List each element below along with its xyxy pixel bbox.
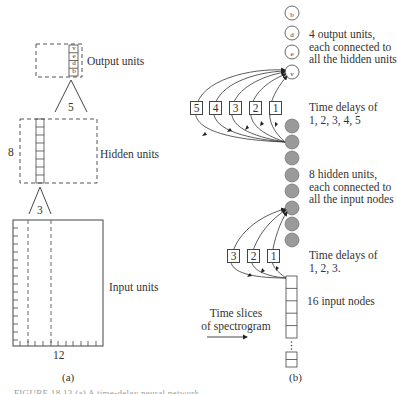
caption-a: (a) xyxy=(62,371,74,383)
output-node-e: e xyxy=(288,48,296,61)
figure-caption: FIGURE 18.13 (a) A time-delay neural net… xyxy=(14,388,199,394)
hidden-description: 8 hidden units, each connected to all th… xyxy=(309,168,394,206)
time-slices-line: of spectrogram xyxy=(195,320,277,333)
output-cell-labels: v e d b xyxy=(70,45,78,76)
input-column-ticks xyxy=(20,341,96,346)
hidden-units-label: Hidden units xyxy=(100,148,159,161)
input-delay-box-2: 2 xyxy=(247,249,260,263)
output-cell-b: b xyxy=(70,68,78,76)
input-delay-box-3: 3 xyxy=(227,249,240,263)
input-units-label: Input units xyxy=(109,281,159,294)
input-row-ticks xyxy=(13,228,18,340)
delay-box-3: 3 xyxy=(229,101,242,115)
input-width-label: 12 xyxy=(53,349,65,362)
time-slices-line: Time slices xyxy=(195,307,277,320)
delay-box-2: 2 xyxy=(249,101,262,115)
output-desc-line: all the hidden units xyxy=(309,53,397,66)
output-node-b: b xyxy=(288,9,296,22)
hidden-window-box xyxy=(20,119,97,183)
output-node-d: d xyxy=(288,29,296,42)
input-node-column xyxy=(286,276,297,367)
input-window-size: 3 xyxy=(37,204,43,217)
input-units-box xyxy=(13,220,103,346)
output-description: 4 output units, each connected to all th… xyxy=(309,28,397,66)
output-desc-line: each connected to xyxy=(309,41,397,54)
hidden-count-label: 8 xyxy=(8,146,14,159)
input-delay-desc-line: Time delays of xyxy=(309,249,378,262)
hidden-desc-line: each connected to xyxy=(309,181,394,194)
input-delay-arcs xyxy=(231,209,287,278)
caption-b: (b) xyxy=(289,371,302,383)
hidden-unit-column xyxy=(36,119,44,183)
output-desc-line: 4 output units, xyxy=(309,28,397,41)
ellipsis-dots xyxy=(291,341,293,350)
input-nodes-label: 16 input nodes xyxy=(307,295,375,308)
delay-box-4: 4 xyxy=(209,101,222,115)
input-delay-desc-line: 1, 2, 3. xyxy=(309,262,378,275)
delay-box-5: 5 xyxy=(190,101,203,115)
hidden-nodes xyxy=(285,119,299,247)
delay-box-1: 1 xyxy=(269,101,282,115)
hidden-delay-description: Time delays of 1, 2, 3, 4, 5 xyxy=(309,101,378,126)
hidden-desc-line: all the input nodes xyxy=(309,193,394,206)
hidden-window-size: 5 xyxy=(68,101,74,114)
input-delay-description: Time delays of 1, 2, 3. xyxy=(309,249,378,274)
input-delay-box-1: 1 xyxy=(267,249,280,263)
hidden-desc-line: 8 hidden units, xyxy=(309,168,394,181)
time-slices-label: Time slices of spectrogram xyxy=(195,307,277,332)
hidden-delay-desc-line: Time delays of xyxy=(309,101,378,114)
output-units-label: Output units xyxy=(87,55,144,68)
hidden-delay-desc-line: 1, 2, 3, 4, 5 xyxy=(309,114,378,127)
output-node-v: v xyxy=(288,68,296,81)
